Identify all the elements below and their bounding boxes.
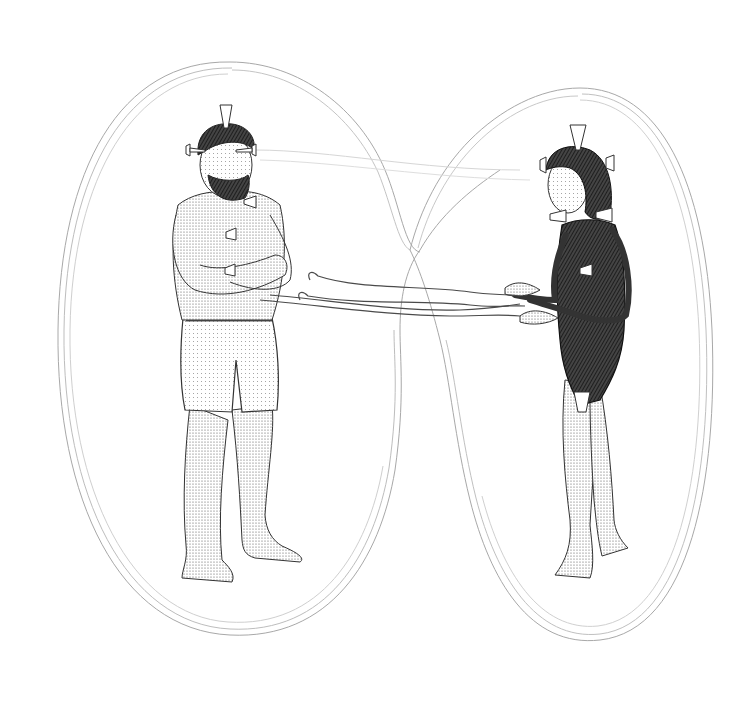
figure-woman xyxy=(505,125,629,578)
illustration-svg xyxy=(0,0,742,707)
energy-cords xyxy=(260,273,525,316)
figure-man xyxy=(173,105,302,582)
illustration-canvas: Two figures with connected energy fields… xyxy=(0,0,742,707)
